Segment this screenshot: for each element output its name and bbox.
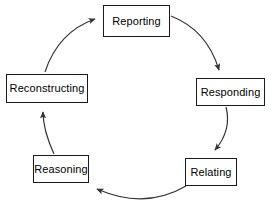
- arrow-reporting-to-responding: [171, 16, 219, 70]
- node-reporting-label: Reporting: [112, 16, 161, 27]
- node-relating-label: Relating: [190, 167, 231, 178]
- node-reporting[interactable]: Reporting: [103, 5, 170, 37]
- cycle-diagram: Reporting Responding Relating Reasoning …: [0, 0, 273, 208]
- node-responding-label: Responding: [201, 87, 261, 98]
- node-relating[interactable]: Relating: [185, 158, 237, 186]
- node-reasoning-label: Reasoning: [34, 164, 88, 175]
- arrow-responding-to-relating: [215, 107, 228, 150]
- arrow-reasoning-to-reconstructing: [43, 112, 54, 154]
- node-reconstructing[interactable]: Reconstructing: [6, 74, 88, 103]
- node-responding[interactable]: Responding: [196, 78, 265, 106]
- arrow-reconstructing-to-reporting: [45, 19, 95, 72]
- arrow-relating-to-reasoning: [97, 186, 186, 199]
- node-reconstructing-label: Reconstructing: [10, 83, 85, 94]
- node-reasoning[interactable]: Reasoning: [33, 155, 89, 183]
